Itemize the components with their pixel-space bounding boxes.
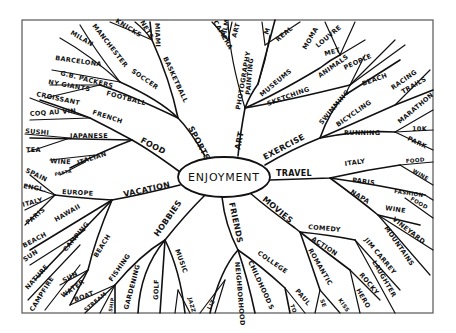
node-japanese: JAPANESE: [69, 132, 108, 140]
node-europe: EUROPE: [62, 188, 94, 198]
node-miami: MIAMI: [153, 23, 162, 48]
node-tea: TEA: [26, 146, 41, 154]
node-golf: GOLF: [152, 279, 161, 300]
node-wine-food: WINE: [50, 157, 71, 166]
node-10k: 10K: [412, 125, 428, 133]
center-node-label: ENJOYMENT: [188, 171, 260, 184]
node-running: RUNNING: [344, 129, 380, 137]
mind-map-diagram: ENJOYMENT FOOD SPORTS ART EXERCISE TRAVE…: [0, 0, 456, 333]
branch-travel-label: TRAVEL: [276, 169, 312, 178]
